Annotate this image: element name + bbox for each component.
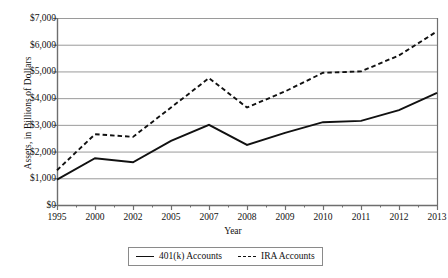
x-tick-label: 2010 [303, 212, 343, 223]
x-axis-title: Year [224, 226, 242, 236]
x-axis-title-wrap: Year [0, 226, 448, 236]
x-tick-label: 1995 [37, 212, 77, 223]
x-tick-label: 2007 [189, 212, 229, 223]
legend-label-ira: IRA Accounts [261, 250, 315, 262]
x-tick-label: 2008 [227, 212, 267, 223]
chart-legend: 401(k) Accounts IRA Accounts [128, 247, 323, 266]
x-axis-tick-labels: 1995200020022005200720082009201020112012… [0, 0, 448, 278]
x-tick-label: 2009 [265, 212, 305, 223]
chart-container: Assets, in Billions of Dollars $0$1,000$… [0, 0, 448, 278]
x-tick-label: 2012 [379, 212, 419, 223]
legend-item-401k: 401(k) Accounts [136, 250, 222, 262]
legend-item-ira: IRA Accounts [238, 250, 315, 262]
legend-swatch-dashed-icon [238, 256, 256, 257]
x-tick-label: 2013 [417, 212, 448, 223]
legend-swatch-solid-icon [136, 256, 154, 257]
x-tick-label: 2005 [151, 212, 191, 223]
x-tick-label: 2011 [341, 212, 381, 223]
legend-label-401k: 401(k) Accounts [159, 250, 222, 262]
x-tick-label: 2000 [75, 212, 115, 223]
x-tick-label: 2002 [113, 212, 153, 223]
